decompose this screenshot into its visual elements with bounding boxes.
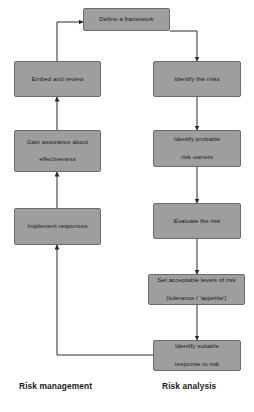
- node-gain-assurance-about-effectiveness[interactable]: Gain assurance about effectiveness: [14, 130, 101, 172]
- node-identify-probable-risk-owners[interactable]: Identify probable risk owners: [153, 130, 241, 167]
- node-identify-the-risks-label: Identify the risks: [156, 75, 238, 84]
- node-set-acceptable-levels-of-risk[interactable]: Set acceptable levels of risk (tolerance…: [148, 274, 245, 305]
- node-evaluate-the-risk-label: Evaluate the risk: [156, 217, 238, 226]
- node-identify-response-line1: Identify suitable: [156, 342, 238, 351]
- node-gain-assurance-line2: effectiveness: [17, 155, 98, 164]
- node-embed-and-review[interactable]: Embed and review: [14, 61, 101, 97]
- node-set-levels-line2: (tolerance / 'appetite'): [151, 294, 242, 303]
- node-evaluate-the-risk[interactable]: Evaluate the risk: [153, 203, 241, 239]
- node-identify-the-risks[interactable]: Identify the risks: [153, 61, 241, 97]
- node-identify-suitable-response-to-risk[interactable]: Identify suitable response to risk: [153, 340, 241, 371]
- edge-embed-to-framework: [57, 22, 83, 61]
- caption-risk-analysis: Risk analysis: [162, 381, 216, 391]
- node-identify-probable-owners-line2: risk owners: [156, 153, 238, 162]
- node-set-levels-line1: Set acceptable levels of risk: [151, 276, 242, 285]
- node-identify-response-line2: response to risk: [156, 360, 238, 369]
- node-gain-assurance-line1: Gain assurance about: [17, 138, 98, 147]
- flowchart-diagram: Define a framework Embed and review Iden…: [0, 0, 254, 412]
- caption-risk-management: Risk management: [19, 381, 92, 391]
- node-define-a-framework[interactable]: Define a framework: [83, 8, 170, 31]
- node-implement-responses[interactable]: Implement responses: [14, 208, 101, 245]
- node-identify-probable-owners-line1: Identify probable: [156, 135, 238, 144]
- node-implement-responses-label: Implement responses: [17, 222, 98, 231]
- node-embed-and-review-label: Embed and review: [17, 75, 98, 84]
- edge-framework-to-identify-risks: [170, 31, 197, 61]
- node-define-a-framework-label: Define a framework: [86, 15, 167, 24]
- edge-response-to-implement: [57, 245, 153, 355]
